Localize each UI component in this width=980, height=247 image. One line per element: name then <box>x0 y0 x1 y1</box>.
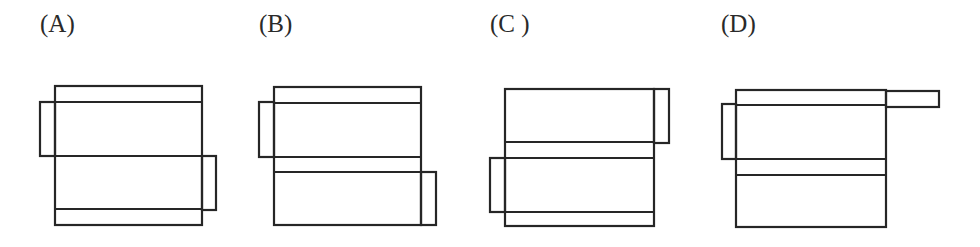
figure-c <box>490 89 669 226</box>
flap-right <box>654 89 669 143</box>
flap-left <box>722 104 736 159</box>
flap-left <box>490 158 505 212</box>
figure-a <box>40 86 216 225</box>
flap-left <box>259 102 274 157</box>
figure-d <box>722 90 939 227</box>
flap-top-right-strip <box>886 91 939 107</box>
figures-canvas <box>0 0 980 247</box>
figure-b <box>259 87 436 225</box>
flap-right <box>202 156 216 210</box>
flap-left <box>40 102 55 156</box>
flap-right <box>421 172 436 225</box>
